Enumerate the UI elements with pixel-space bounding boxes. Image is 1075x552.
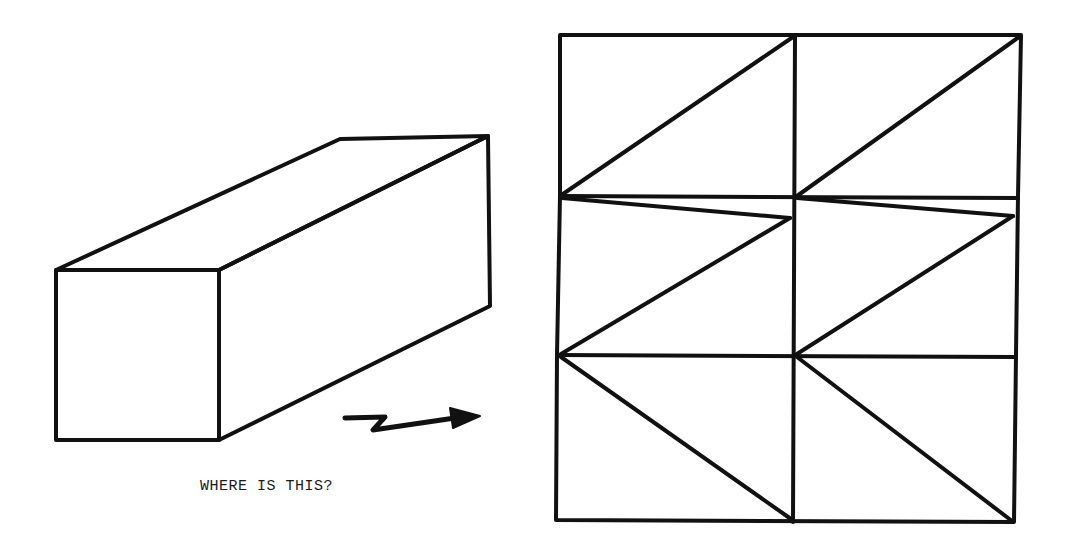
folding-net-grid — [556, 35, 1021, 522]
cell-r3c1-diagonal — [561, 357, 791, 519]
cell-r2c1-sliver — [562, 198, 790, 218]
grid-middle-vertical — [793, 35, 795, 522]
diagram-canvas — [0, 0, 1075, 552]
direction-arrow-icon — [345, 408, 480, 430]
cell-r2c1-diagonal — [561, 218, 790, 354]
cell-r3c2-diagonal — [797, 357, 1012, 521]
cell-r2c2-sliver — [797, 198, 1013, 216]
grid-row-divider-1 — [560, 196, 1018, 198]
rectangular-prism — [56, 136, 490, 440]
cell-r1c2-diagonal — [797, 37, 1019, 196]
prism-front-face — [56, 270, 219, 440]
prism-side-face — [219, 136, 490, 440]
cell-r2c2-diagonal — [797, 216, 1013, 354]
grid-outer-frame — [556, 35, 1021, 522]
grid-row-divider-2 — [557, 355, 1016, 357]
caption-text: WHERE IS THIS? — [200, 478, 333, 495]
prism-top-face — [56, 136, 488, 270]
cell-r1c1-diagonal — [560, 37, 793, 196]
